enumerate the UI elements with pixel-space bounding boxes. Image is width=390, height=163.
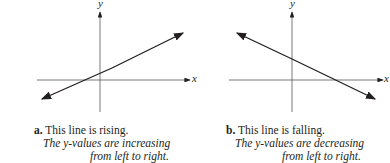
caption-label: b. bbox=[226, 124, 235, 136]
caption-title: This line is rising. bbox=[43, 124, 129, 136]
caption-line3: from left to right. bbox=[226, 150, 364, 163]
rising-line-graph bbox=[0, 0, 195, 115]
caption-a: a. This line is rising. The y-values are… bbox=[34, 124, 170, 163]
caption-line3: from left to right. bbox=[34, 150, 170, 163]
falling-line-graph bbox=[195, 0, 390, 115]
caption-line2: The y-values are decreasing bbox=[226, 137, 364, 150]
caption-label: a. bbox=[34, 124, 43, 136]
caption-title: This line is falling. bbox=[235, 124, 325, 136]
y-axis-label: y bbox=[290, 0, 295, 9]
panel-rising: y x a. This line is rising. The y-values… bbox=[0, 0, 195, 160]
panel-falling: y x b. This line is falling. The y-value… bbox=[195, 0, 390, 160]
caption-line2: The y-values are increasing bbox=[34, 137, 170, 150]
x-axis-label: x bbox=[384, 72, 389, 84]
caption-b: b. This line is falling. The y-values ar… bbox=[226, 124, 364, 163]
y-axis-label: y bbox=[98, 0, 103, 9]
